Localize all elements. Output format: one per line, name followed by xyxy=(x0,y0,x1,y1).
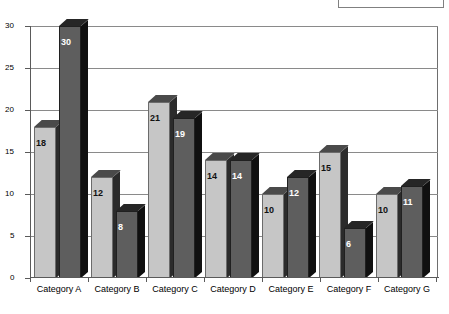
x-axis-label-category-c: Category C xyxy=(146,284,204,294)
chart-canvas: 18 30 12 8 xyxy=(0,0,449,314)
bar-value-label: 8 xyxy=(118,223,123,232)
bar-category-d-series-2[interactable]: 14 xyxy=(230,160,252,278)
bar-side-face xyxy=(252,154,259,278)
y-tick-mark-10 xyxy=(25,194,30,195)
y-tick-label-25: 25 xyxy=(5,63,14,72)
bar-side-face xyxy=(195,112,202,278)
bar-value-label: 12 xyxy=(289,189,299,198)
x-tick-mark-6 xyxy=(378,278,379,282)
x-tick-mark-7 xyxy=(436,278,437,282)
bar-category-d-series-1[interactable]: 14 xyxy=(205,160,227,278)
x-tick-mark-2 xyxy=(146,278,147,282)
plot-area: 18 30 12 8 xyxy=(30,26,438,278)
bar-value-label: 30 xyxy=(61,38,71,47)
bar-side-face xyxy=(309,171,316,278)
x-axis-label-category-f: Category F xyxy=(320,284,378,294)
bar-group-category-d: 14 14 xyxy=(205,26,257,278)
x-axis-label-category-g: Category G xyxy=(378,284,436,294)
bar-value-label: 19 xyxy=(175,130,185,139)
bar-value-label: 18 xyxy=(36,139,46,148)
bar-group-category-f: 15 6 xyxy=(319,26,371,278)
x-tick-mark-0 xyxy=(30,278,31,282)
bar-value-label: 12 xyxy=(93,189,103,198)
bar-category-a-series-1[interactable]: 18 xyxy=(34,127,56,278)
y-tick-mark-25 xyxy=(25,68,30,69)
x-tick-mark-4 xyxy=(262,278,263,282)
x-axis-label-category-a: Category A xyxy=(30,284,88,294)
bar-value-label: 14 xyxy=(232,172,242,181)
y-tick-label-10: 10 xyxy=(5,189,14,198)
x-axis-label-category-e: Category E xyxy=(262,284,320,294)
bar-category-c-series-1[interactable]: 21 xyxy=(148,102,170,278)
bar-group-category-c: 21 19 xyxy=(148,26,200,278)
bar-value-label: 10 xyxy=(378,206,388,215)
bar-category-g-series-2[interactable]: 11 xyxy=(401,186,423,278)
bar-category-g-series-1[interactable]: 10 xyxy=(376,194,398,278)
bar-side-face xyxy=(423,180,430,278)
y-axis-line xyxy=(30,26,31,278)
bar-side-face xyxy=(366,222,373,278)
bar-category-f-series-1[interactable]: 15 xyxy=(319,152,341,278)
x-tick-mark-3 xyxy=(204,278,205,282)
bar-group-category-b: 12 8 xyxy=(91,26,143,278)
bar-front-face xyxy=(148,102,170,278)
bar-category-e-series-1[interactable]: 10 xyxy=(262,194,284,278)
x-axis-label-category-d: Category D xyxy=(204,284,262,294)
y-tick-mark-30 xyxy=(25,26,30,27)
bar-value-label: 10 xyxy=(264,206,274,215)
x-tick-mark-5 xyxy=(320,278,321,282)
bar-value-label: 15 xyxy=(321,164,331,173)
bar-side-face xyxy=(138,205,145,278)
bar-value-label: 14 xyxy=(207,172,217,181)
bar-front-face xyxy=(344,228,366,278)
y-tick-label-20: 20 xyxy=(5,105,14,114)
bar-category-e-series-2[interactable]: 12 xyxy=(287,177,309,278)
bar-value-label: 11 xyxy=(403,198,413,207)
bar-category-b-series-2[interactable]: 8 xyxy=(116,211,138,278)
bar-group-category-e: 10 12 xyxy=(262,26,314,278)
bar-category-a-series-2[interactable]: 30 xyxy=(59,26,81,278)
bar-group-category-g: 10 11 xyxy=(376,26,428,278)
bar-category-b-series-1[interactable]: 12 xyxy=(91,177,113,278)
y-tick-mark-20 xyxy=(25,110,30,111)
x-tick-mark-1 xyxy=(88,278,89,282)
bar-side-face xyxy=(81,20,88,278)
y-tick-mark-15 xyxy=(25,152,30,153)
bar-front-face xyxy=(34,127,56,278)
y-tick-mark-5 xyxy=(25,236,30,237)
bar-category-c-series-2[interactable]: 19 xyxy=(173,118,195,278)
y-tick-label-0: 0 xyxy=(10,273,14,282)
bar-value-label: 21 xyxy=(150,114,160,123)
bar-group-category-a: 18 30 xyxy=(34,26,86,278)
y-tick-label-30: 30 xyxy=(5,21,14,30)
bar-value-label: 6 xyxy=(346,240,351,249)
y-tick-label-15: 15 xyxy=(5,147,14,156)
bar-category-f-series-2[interactable]: 6 xyxy=(344,228,366,278)
y-tick-label-5: 5 xyxy=(10,231,14,240)
chart-legend[interactable] xyxy=(338,0,444,8)
bar-front-face xyxy=(59,26,81,278)
bar-front-face xyxy=(173,118,195,278)
x-axis-label-category-b: Category B xyxy=(88,284,146,294)
